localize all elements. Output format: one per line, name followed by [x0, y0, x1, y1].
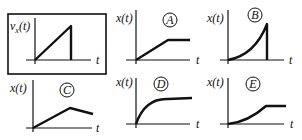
option-c-ylabel: x(t): [9, 81, 27, 95]
position-curve: [136, 40, 190, 60]
option-a-letter: A: [165, 13, 174, 27]
option-e-letter: E: [248, 77, 257, 91]
position-curve: [136, 98, 192, 124]
option-a-ylabel: x(t): [115, 11, 133, 25]
given-ylabel: vx(t): [10, 19, 30, 35]
option-c-graph: x(t) t C: [9, 80, 100, 135]
position-curve: [228, 106, 286, 124]
option-d-letter: D: [156, 77, 166, 91]
given-xlabel: t: [96, 53, 100, 67]
motion-graphs-diagram: vx(t) t x(t) t A x(t) t B x(t) t C x(t): [0, 0, 302, 140]
velocity-curve: [35, 26, 71, 60]
option-b-graph: x(t) t B: [206, 8, 293, 67]
option-c-letter: C: [63, 83, 72, 97]
option-e-xlabel: t: [290, 117, 294, 131]
option-e-ylabel: x(t): [206, 75, 224, 89]
option-a-xlabel: t: [196, 53, 200, 67]
option-c-xlabel: t: [96, 121, 100, 135]
option-a-graph: x(t) t A: [115, 10, 200, 67]
option-d-graph: x(t) t D: [115, 75, 200, 131]
given-velocity-graph: vx(t) t: [8, 14, 106, 74]
option-b-ylabel: x(t): [206, 11, 224, 25]
option-e-graph: x(t) t E: [206, 75, 294, 131]
option-d-xlabel: t: [196, 117, 200, 131]
option-d-ylabel: x(t): [115, 75, 133, 89]
option-b-letter: B: [251, 8, 259, 22]
position-curve: [228, 24, 267, 60]
position-curve: [33, 108, 93, 128]
option-b-xlabel: t: [289, 53, 293, 67]
